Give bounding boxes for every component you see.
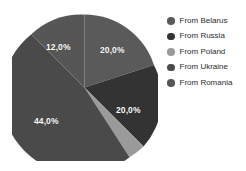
pie-slices [12, 14, 158, 161]
legend-swatch-icon [167, 48, 175, 56]
chart-legend: From Belarus From Russia From Poland Fro… [167, 13, 246, 91]
slice-label-belarus: 20,0% [100, 45, 125, 55]
legend-label: From Poland [180, 48, 226, 56]
legend-item-belarus[interactable]: From Belarus [167, 13, 246, 29]
legend-label: From Belarus [180, 17, 228, 25]
legend-item-ukraine[interactable]: From Ukraine [167, 60, 246, 76]
slice-label-ukraine: 44,0% [34, 116, 59, 126]
legend-swatch-icon [167, 79, 175, 87]
legend-swatch-icon [167, 33, 175, 41]
slice-label-russia: 20,0% [116, 105, 141, 115]
pie-plot-area: 20,0% 20,0% 44,0% 12,0% [12, 13, 158, 161]
legend-label: From Ukraine [180, 63, 228, 71]
pie-chart-figure: 20,0% 20,0% 44,0% 12,0% From Belarus Fro… [0, 0, 246, 171]
slice-label-romania: 12,0% [46, 42, 71, 52]
legend-swatch-icon [167, 17, 175, 25]
legend-item-romania[interactable]: From Romania [167, 75, 246, 91]
legend-item-russia[interactable]: From Russia [167, 29, 246, 45]
legend-label: From Russia [180, 32, 225, 40]
pie-svg [12, 13, 158, 161]
legend-item-poland[interactable]: From Poland [167, 44, 246, 60]
legend-swatch-icon [167, 64, 175, 72]
legend-label: From Romania [180, 79, 233, 87]
